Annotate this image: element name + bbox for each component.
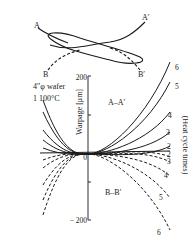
upper-curve-label-3: 3 [166, 128, 170, 137]
upper-curve-4 [43, 112, 170, 154]
upper-curve-6 [43, 62, 170, 154]
label-a-prime: A′ [142, 13, 150, 22]
label-b-prime: B′ [138, 70, 145, 79]
y-axis-title: Warpage [μm] [75, 89, 84, 135]
y-axis [88, 76, 91, 220]
y-tick-label-minus-200: − 200 [70, 216, 88, 225]
lower-curve-label-6: 6 [157, 228, 161, 236]
line-b-dashed [48, 50, 80, 70]
label-a: A [34, 21, 40, 30]
y-tick-label-200: 200 [76, 73, 88, 82]
upper-curve-label-5: 5 [175, 82, 179, 91]
warpage-diagram: A A′ B B′ 4″φ wafer 1 100°C 200 0 − 200 … [0, 0, 188, 236]
wafer-loop-cross [50, 22, 145, 48]
wafer-size-label: 4″φ wafer [33, 82, 65, 91]
label-b: B [43, 70, 48, 79]
heat-cycle-axis-title: (Heat cycle times) [181, 116, 188, 175]
lower-curve-3 [43, 153, 170, 168]
upper-curve-label-6: 6 [175, 63, 179, 72]
lower-curve-label-4: 4 [164, 171, 168, 180]
lower-curve-4 [43, 154, 170, 185]
section-label-upper: A–A′ [108, 98, 126, 107]
lower-curve-label-5: 5 [159, 193, 163, 202]
lower-curve-label-3: 3 [167, 157, 171, 166]
wafer-illustration [38, 22, 145, 70]
section-label-lower: B–B′ [105, 188, 122, 197]
upper-curve-label-4: 4 [168, 111, 172, 120]
temperature-label: 1 100°C [33, 94, 60, 103]
